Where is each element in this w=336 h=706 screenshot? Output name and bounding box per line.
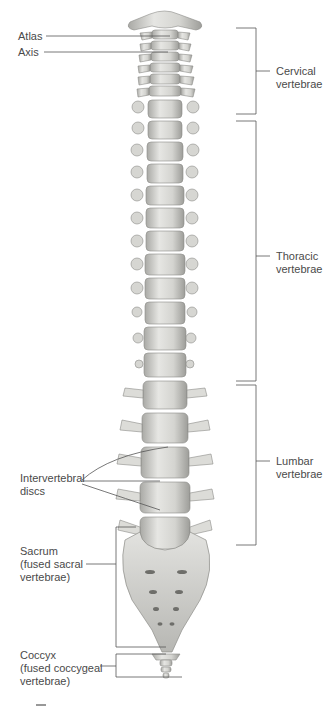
cervical-vertebrae [137, 30, 195, 97]
sacrum [123, 532, 210, 652]
spine-illustration [0, 0, 336, 706]
label-thoracic: Thoracic vertebrae [276, 250, 322, 276]
label-sacrum: Sacrum (fused sacral vertebrae) [20, 545, 83, 584]
lumbar-vertebrae [116, 381, 214, 549]
atlas-vertebra [128, 11, 202, 30]
label-axis: Axis [18, 46, 39, 59]
label-atlas: Atlas [18, 30, 42, 43]
label-intervertebral-discs: Intervertebral discs [20, 472, 85, 498]
label-cervical: Cervical vertebrae [276, 65, 322, 91]
thoracic-vertebrae [131, 100, 199, 377]
label-coccyx: Coccyx (fused coccygeal vertebrae) [20, 649, 103, 688]
label-lumbar: Lumbar vertebrae [276, 455, 322, 481]
coccyx [152, 654, 180, 678]
